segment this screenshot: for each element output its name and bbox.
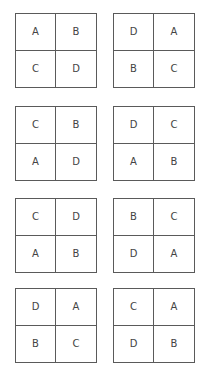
grid-cell: B (56, 14, 96, 51)
grid-cell: C (16, 51, 56, 88)
grid-cell: C (154, 107, 194, 144)
grid-4: D C A B (113, 106, 195, 181)
grid-cell: A (16, 236, 56, 273)
grid-cell: B (114, 51, 154, 88)
grid-cell: B (56, 107, 96, 144)
grid-cell: D (56, 51, 96, 88)
grid-cell: B (16, 326, 56, 363)
grid-cell: A (56, 289, 96, 326)
grid-cell: D (56, 199, 96, 236)
grid-cell: A (154, 236, 194, 273)
grid-cell: D (114, 107, 154, 144)
grid-cell: A (16, 144, 56, 181)
grid-cell: D (16, 289, 56, 326)
grid-2: D A B C (113, 13, 195, 88)
grid-cell: C (154, 51, 194, 88)
grid-cell: C (114, 289, 154, 326)
grid-cell: C (16, 199, 56, 236)
grid-cell: A (154, 14, 194, 51)
grid-cell: C (154, 199, 194, 236)
grid-cell: D (114, 326, 154, 363)
grid-3: C B A D (15, 106, 97, 181)
grid-cell: D (114, 14, 154, 51)
grid-1: A B C D (15, 13, 97, 88)
grid-cell: B (114, 199, 154, 236)
grid-cell: B (154, 326, 194, 363)
grid-7: D A B C (15, 288, 97, 363)
grid-cell: B (56, 236, 96, 273)
grid-cell: B (154, 144, 194, 181)
grid-cell: A (16, 14, 56, 51)
grid-cell: D (56, 144, 96, 181)
grid-cell: A (154, 289, 194, 326)
grid-8: C A D B (113, 288, 195, 363)
grid-cell: C (56, 326, 96, 363)
grid-5: C D A B (15, 198, 97, 273)
grid-cell: C (16, 107, 56, 144)
grid-cell: D (114, 236, 154, 273)
grid-6: B C D A (113, 198, 195, 273)
grid-cell: A (114, 144, 154, 181)
